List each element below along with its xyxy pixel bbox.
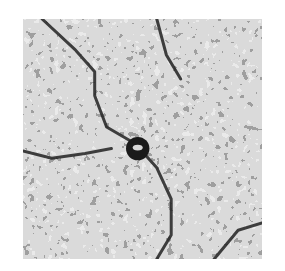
texture-canvas [23, 19, 262, 259]
dark-particle [126, 137, 149, 160]
micrograph-image [23, 19, 262, 259]
